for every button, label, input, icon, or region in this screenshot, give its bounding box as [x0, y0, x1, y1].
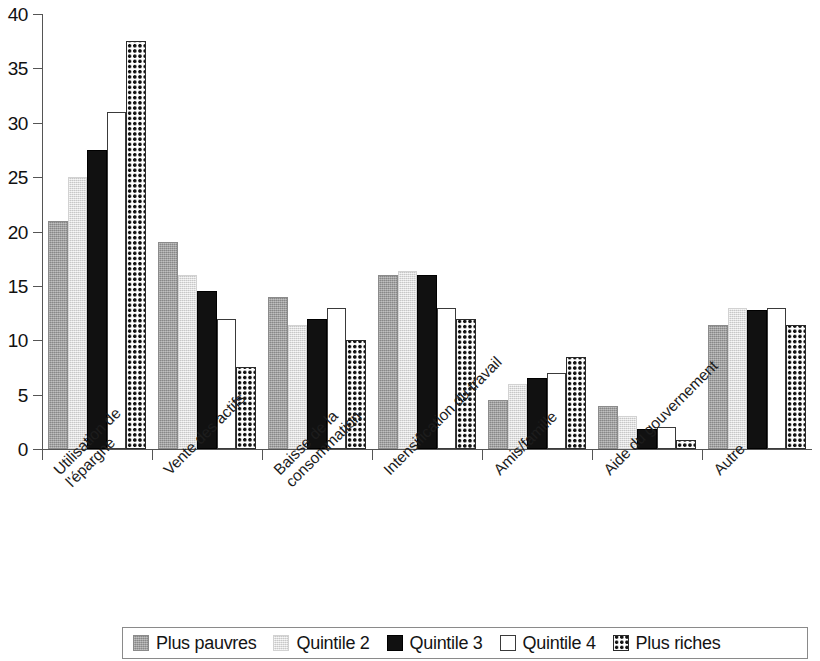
bar: [68, 177, 88, 449]
legend-item: Quintile 2: [273, 634, 369, 652]
bar: [676, 440, 696, 449]
bar: [657, 427, 677, 449]
legend-item-label: Plus pauvres: [156, 634, 256, 652]
y-tick-label: 25: [8, 168, 28, 187]
bar-chart: 0510152025303540 Utilisation de l'épargn…: [0, 0, 820, 661]
legend-item-label: Quintile 2: [296, 634, 369, 652]
x-tick-mark: [372, 450, 373, 460]
bar: [786, 325, 806, 449]
legend-swatch-icon: [500, 635, 516, 651]
x-tick-mark: [262, 450, 263, 460]
y-tick-label: 30: [8, 114, 28, 133]
bar: [398, 271, 418, 449]
y-tick-label: 40: [8, 5, 28, 24]
bar: [767, 308, 787, 449]
legend-swatch-icon: [273, 635, 289, 651]
x-tick-mark: [592, 450, 593, 460]
bar: [178, 275, 198, 449]
legend-item-label: Quintile 4: [523, 634, 596, 652]
y-tick-label: 5: [18, 386, 28, 405]
x-tick-mark: [482, 450, 483, 460]
legend-item-label: Plus riches: [636, 634, 721, 652]
y-tick-label: 35: [8, 59, 28, 78]
legend-swatch-icon: [133, 635, 149, 651]
bar: [126, 41, 146, 449]
bar-group: [152, 14, 262, 449]
bar: [598, 406, 618, 450]
bar: [708, 325, 728, 449]
bar: [268, 297, 288, 449]
bar-group: [42, 14, 152, 449]
bar: [158, 242, 178, 449]
legend-swatch-icon: [387, 635, 403, 651]
bar: [747, 310, 767, 449]
bar: [107, 112, 127, 449]
y-tick-label: 0: [18, 440, 28, 459]
bar: [48, 221, 68, 449]
bar-group: [482, 14, 592, 449]
legend-item: Quintile 4: [500, 634, 596, 652]
bar: [378, 275, 398, 449]
x-tick-mark: [42, 450, 43, 460]
x-tick-mark: [702, 450, 703, 460]
bar: [566, 357, 586, 449]
x-tick-mark: [152, 450, 153, 460]
bar-group: [702, 14, 812, 449]
bar-group: [262, 14, 372, 449]
bar: [728, 308, 748, 449]
legend-item: Quintile 3: [387, 634, 483, 652]
bar: [488, 400, 508, 449]
chart-legend: Plus pauvresQuintile 2Quintile 3Quintile…: [122, 627, 808, 659]
y-tick-label: 20: [8, 223, 28, 242]
legend-item: Plus pauvres: [133, 634, 256, 652]
legend-item-label: Quintile 3: [410, 634, 483, 652]
legend-swatch-icon: [613, 635, 629, 651]
bar: [87, 150, 107, 449]
y-tick-label: 10: [8, 331, 28, 350]
legend-item: Plus riches: [613, 634, 721, 652]
x-axis-line: [42, 449, 812, 450]
y-tick-label: 15: [8, 277, 28, 296]
